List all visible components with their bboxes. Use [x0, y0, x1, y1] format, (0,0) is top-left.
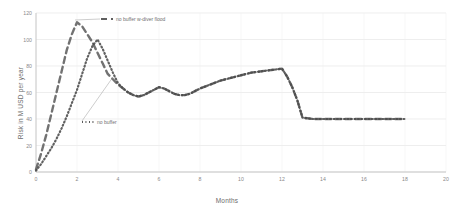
- legend-label-diver-flood: no buffer w-diver flood: [116, 16, 165, 22]
- data-series-layer: [36, 22, 405, 170]
- legend-label-no-buffer: no buffer: [97, 119, 117, 125]
- gridlines: [36, 13, 446, 172]
- risk-line-chart: Risk in M USD per year Months 0204060801…: [0, 0, 454, 206]
- chart-canvas: [0, 0, 454, 206]
